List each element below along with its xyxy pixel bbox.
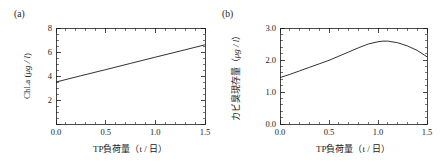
panel-a-ytick-label: 8	[48, 23, 52, 33]
panel-b-yaxis-title: カビ臭現存量（μg / l）	[230, 31, 241, 122]
panel-b-xtick-label: 0.0	[275, 127, 286, 137]
panel-b-ytick-label: 0.0	[265, 119, 276, 129]
panel-a-yaxis-title: Chl.a (μg / l)	[22, 53, 32, 99]
panel-a-xtick-label: 1.5	[200, 127, 211, 137]
panel-a-data-line	[56, 45, 205, 82]
panel-a-xtick-label: 0.5	[100, 127, 111, 137]
panel-b-ytick-label: 3.0	[265, 23, 276, 33]
panel-a-ytick-label: 4	[48, 71, 53, 81]
panel-a-xtick-label: 1.0	[150, 127, 161, 137]
panel-b-yaxis-title-main: カビ臭現存量（	[230, 58, 241, 121]
panel-b-data-curve	[280, 41, 427, 77]
panel-b-yaxis-minor-ticks	[280, 34, 427, 117]
panel-b-yaxis-major-ticks	[280, 28, 427, 124]
panel-b-ytick-label: 2.0	[265, 55, 276, 65]
panel-b-xaxis-title: TP負荷量（t / 日）	[316, 143, 390, 154]
panel-a-plot: 0.0 0.5 1.0 1.5 2 4 6 8 TP負荷量（t / 日） Chl…	[0, 0, 221, 165]
panel-a-ytick-label: 6	[48, 47, 52, 57]
panel-a-yaxis-title-close: )	[22, 53, 32, 56]
panel-a-xaxis-title: TP負荷量（t / 日）	[93, 143, 167, 154]
panel-b-xtick-label: 1.5	[422, 127, 433, 137]
panel-b-yaxis-title-unit: μg / l	[231, 39, 241, 59]
chart-panel-a: (a)	[0, 0, 221, 165]
panel-b-axes-frame	[280, 28, 427, 124]
panel-b-xaxis-major-ticks	[280, 28, 427, 124]
panel-a-xaxis-minor-ticks	[66, 28, 195, 124]
panel-a-yaxis-title-unit: μg / l	[22, 55, 32, 75]
panel-a-xtick-label: 0.0	[51, 127, 62, 137]
panel-b-xtick-label: 1.0	[373, 127, 384, 137]
panel-b-ytick-label: 1.0	[265, 87, 276, 97]
panel-b-yaxis-title-close: ）	[231, 31, 241, 40]
panel-b-xtick-label: 0.5	[324, 127, 335, 137]
panel-b-plot: 0.0 0.5 1.0 1.5 0.0 1.0 2.0 3.0 TP負荷量（t …	[222, 0, 443, 165]
panel-b-xaxis-minor-ticks	[290, 28, 417, 124]
figure-container: (a)	[0, 0, 443, 165]
panel-a-ytick-label: 2	[48, 95, 52, 105]
panel-a-yaxis-title-main: Chl.a (	[22, 75, 32, 100]
chart-panel-b: (b)	[222, 0, 443, 165]
